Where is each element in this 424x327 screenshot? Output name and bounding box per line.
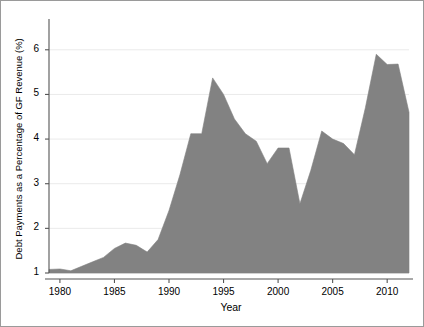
x-tick-label: 2000 — [258, 286, 298, 297]
y-tick-label: 4 — [23, 132, 39, 143]
x-tick-label: 2005 — [313, 286, 353, 297]
y-tick-label: 2 — [23, 221, 39, 232]
x-tick-label: 1990 — [149, 286, 189, 297]
x-tick-label: 1995 — [204, 286, 244, 297]
y-tick-label: 1 — [23, 266, 39, 277]
y-tick-label: 3 — [23, 177, 39, 188]
area-series — [49, 54, 409, 273]
y-tick-label: 5 — [23, 87, 39, 98]
area-path — [49, 54, 409, 273]
x-axis-title: Year — [46, 301, 416, 313]
y-tick-label: 6 — [23, 43, 39, 54]
x-tick-label: 2010 — [367, 286, 407, 297]
x-tick-label: 1980 — [40, 286, 80, 297]
area-chart — [1, 1, 424, 327]
figure-frame: 123456 1980198519901995200020052010 Debt… — [0, 0, 424, 327]
y-axis-title: Debt Payments as a Percentage of GF Reve… — [13, 50, 24, 260]
x-tick-label: 1985 — [94, 286, 134, 297]
